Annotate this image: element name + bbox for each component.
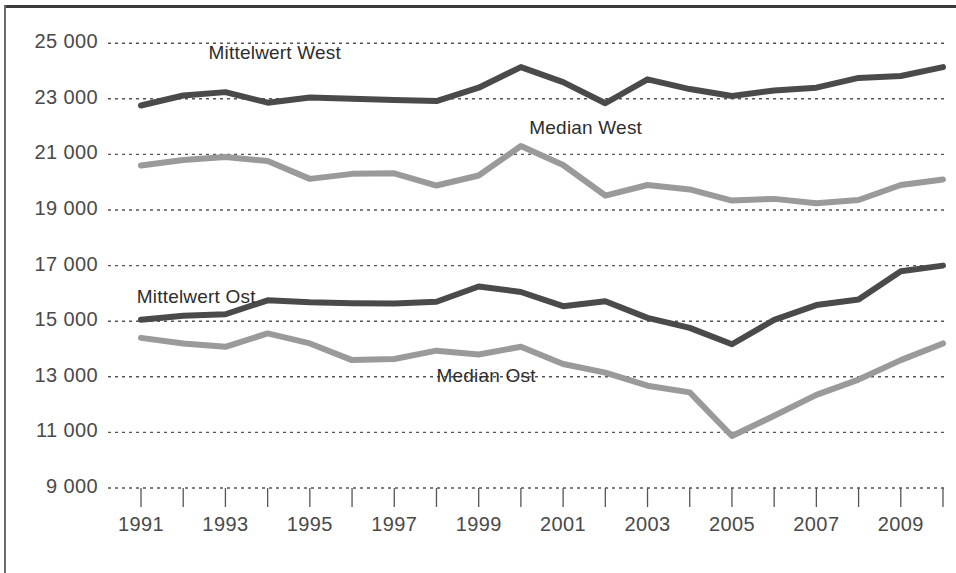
xaxis-tick-label: 2007 — [776, 513, 856, 536]
series-line — [141, 333, 943, 436]
yaxis-tick-label: 23 000 — [0, 86, 98, 109]
series-label-mittelwert-west: Mittelwert West — [209, 42, 342, 64]
gridline-group — [108, 43, 948, 488]
xaxis-tick-label: 1993 — [185, 513, 265, 536]
series-label-median-west: Median West — [529, 117, 642, 139]
xaxis-tick-label: 2009 — [861, 513, 941, 536]
xaxis-tick-group — [141, 488, 943, 507]
series-label-mittelwert-ost: Mittelwert Ost — [137, 286, 256, 308]
yaxis-tick-label: 11 000 — [0, 419, 98, 442]
xaxis-tick-label: 2001 — [523, 513, 603, 536]
yaxis-tick-label: 25 000 — [0, 30, 98, 53]
xaxis-tick-label: 2005 — [692, 513, 772, 536]
xaxis-tick-label: 1999 — [439, 513, 519, 536]
yaxis-tick-label: 19 000 — [0, 197, 98, 220]
yaxis-tick-label: 9 000 — [0, 475, 98, 498]
series-label-median-ost: Median Ost — [436, 365, 535, 387]
xaxis-tick-label: 1991 — [101, 513, 181, 536]
yaxis-tick-label: 13 000 — [0, 364, 98, 387]
yaxis-tick-label: 15 000 — [0, 308, 98, 331]
yaxis-tick-label: 21 000 — [0, 141, 98, 164]
xaxis-tick-label: 1995 — [270, 513, 350, 536]
xaxis-tick-label: 1997 — [354, 513, 434, 536]
yaxis-tick-label: 17 000 — [0, 253, 98, 276]
chart-figure: 25 00023 00021 00019 00017 00015 00013 0… — [0, 0, 956, 573]
xaxis-tick-label: 2003 — [608, 513, 688, 536]
series-line — [141, 67, 943, 105]
